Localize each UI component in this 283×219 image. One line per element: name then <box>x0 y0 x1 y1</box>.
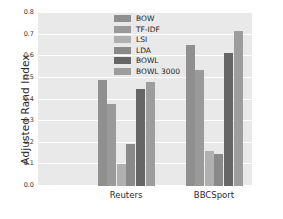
legend-label: BOWL 3000 <box>136 67 180 76</box>
bar <box>214 154 223 186</box>
y-axis-tick-label: 0.2 <box>24 138 34 146</box>
bar <box>186 45 195 186</box>
legend-item: LSI <box>114 35 180 44</box>
legend-swatch <box>114 68 131 75</box>
y-axis-tick-label: 0.3 <box>24 116 34 124</box>
bar-chart-figure: Adjusted Rand Index 0.00.10.20.30.40.50.… <box>0 0 283 219</box>
bar <box>195 70 204 186</box>
bar <box>117 164 126 186</box>
legend-swatch <box>114 36 131 43</box>
y-axis-tick-label: 0.5 <box>24 73 34 81</box>
y-axis-tick-label: 0.0 <box>24 181 34 189</box>
legend-item: LDA <box>114 46 180 55</box>
bar <box>224 53 233 186</box>
gridline: 0.8 <box>38 12 252 13</box>
bar <box>98 80 107 186</box>
legend-item: BOW <box>114 14 180 23</box>
bar <box>234 31 243 186</box>
legend-swatch <box>114 57 131 64</box>
x-axis-group-label: BBCSport <box>194 190 234 200</box>
legend-label: LSI <box>136 35 147 44</box>
x-axis-group-label: Reuters <box>110 190 143 200</box>
legend-label: TF-IDF <box>136 25 160 34</box>
y-axis-tick-label: 0.8 <box>24 8 34 16</box>
legend-label: LDA <box>136 46 151 55</box>
legend: BOWTF-IDFLSILDABOWLBOWL 3000 <box>114 14 180 76</box>
legend-swatch <box>114 47 131 54</box>
legend-swatch <box>114 15 131 22</box>
y-axis-tick-label: 0.1 <box>24 159 34 167</box>
legend-swatch <box>114 26 131 33</box>
bar <box>146 82 155 186</box>
legend-label: BOWL <box>136 56 159 65</box>
bar <box>136 89 145 186</box>
gridline: 0.5 <box>38 77 252 78</box>
bar <box>205 151 214 186</box>
legend-item: BOWL <box>114 56 180 65</box>
legend-item: TF-IDF <box>114 25 180 34</box>
legend-label: BOW <box>136 14 154 23</box>
y-axis-tick-label: 0.6 <box>24 51 34 59</box>
bar <box>126 144 135 186</box>
bar <box>107 104 116 186</box>
legend-item: BOWL 3000 <box>114 67 180 76</box>
y-axis-tick-label: 0.4 <box>24 95 34 103</box>
y-axis-tick-label: 0.7 <box>24 30 34 38</box>
